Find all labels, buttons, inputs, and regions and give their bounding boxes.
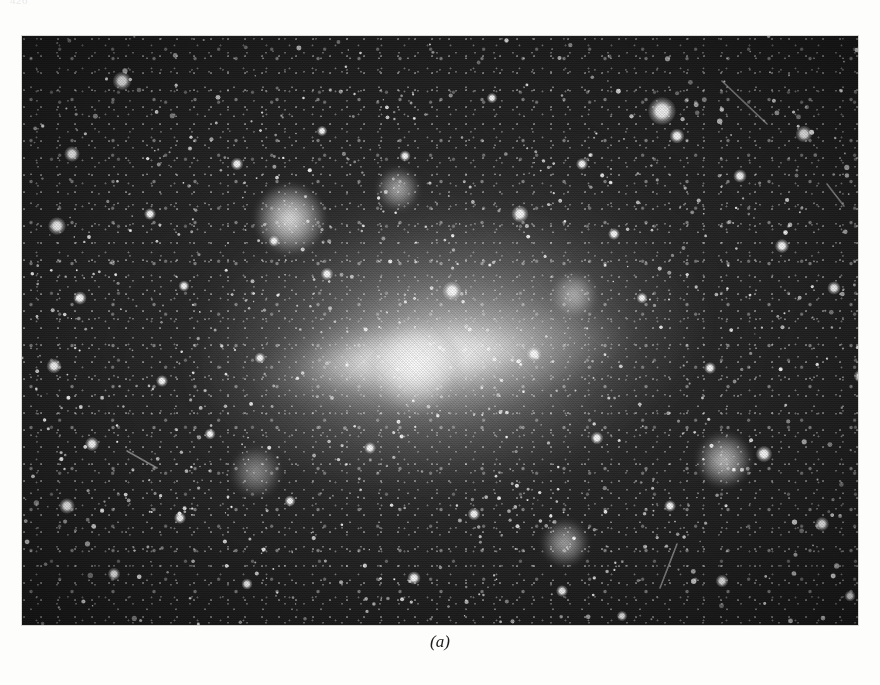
east-arm-knot [552, 273, 596, 317]
central-bar-core [369, 320, 461, 412]
figure-plate-wrapper [22, 36, 858, 625]
book-page: 426 (a) [0, 0, 880, 685]
southeast-cluster [698, 434, 750, 486]
south-central-cluster [543, 521, 587, 565]
figure-caption: (a) [0, 632, 880, 652]
southwest-wisp [232, 448, 280, 496]
running-head-page-number: 426 [10, 0, 44, 5]
astrophotograph-plate [22, 36, 858, 625]
northwest-nebular-knot [256, 185, 324, 253]
